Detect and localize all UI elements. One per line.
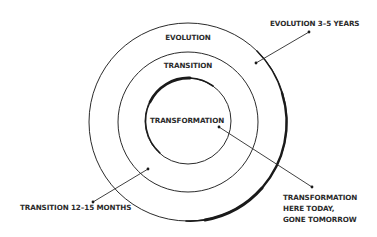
outer-ring-emphasis-arc xyxy=(262,93,287,188)
ring-label-evolution: EVOLUTION xyxy=(165,33,211,42)
transformation-pointer-dot-start xyxy=(218,126,221,129)
transformation-pointer-dot-end xyxy=(311,186,314,189)
transformation-callout-line-1: TRANSFORMATION xyxy=(283,193,357,202)
transition-callout-label: TRANSITION 12–15 MONTHS xyxy=(20,203,131,212)
evolution-pointer-dot-end xyxy=(255,62,258,65)
evolution-pointer-dot-start xyxy=(308,31,311,34)
outer-ring-emphasis-arc-head xyxy=(257,51,282,93)
inner-ring-emphasis-arc-peak xyxy=(150,78,190,102)
transition-pointer-dot-start xyxy=(147,168,150,171)
outer-ring-emphasis-arc-peak xyxy=(205,188,262,220)
ring-label-transformation: TRANSFORMATION xyxy=(150,116,224,125)
transformation-callout-line-2: HERE TODAY, xyxy=(283,204,334,213)
outer-ring-emphasis-arc-tail xyxy=(186,220,205,221)
transition-pointer-line xyxy=(93,169,148,202)
evolution-pointer-line xyxy=(256,32,309,63)
concentric-diagram: EVOLUTION TRANSITION TRANSFORMATION EVOL… xyxy=(0,0,377,237)
evolution-callout-label: EVOLUTION 3–5 YEARS xyxy=(270,19,359,28)
inner-ring-emphasis-arc xyxy=(146,102,160,153)
inner-ring-emphasis-arc-tail xyxy=(190,78,213,86)
transformation-callout-line-3: GONE TOMORROW xyxy=(283,215,357,224)
ring-label-transition: TRANSITION xyxy=(164,61,213,70)
transformation-pointer-line xyxy=(219,127,312,187)
